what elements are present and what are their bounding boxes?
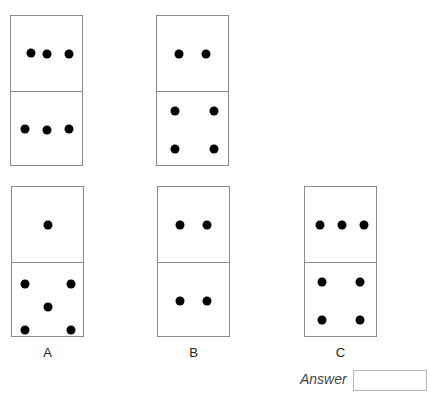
dot xyxy=(43,126,52,135)
dot xyxy=(202,50,211,59)
option-b-domino[interactable] xyxy=(157,186,230,337)
dot xyxy=(27,49,36,58)
domino-bottom-half xyxy=(305,262,376,338)
dot xyxy=(356,278,365,287)
domino-top-half xyxy=(157,16,228,91)
dot xyxy=(171,145,180,154)
dot xyxy=(175,50,184,59)
dot xyxy=(316,221,325,230)
domino-bottom-half xyxy=(157,91,228,167)
option-a-label: A xyxy=(11,345,84,360)
option-c-domino[interactable] xyxy=(304,186,377,337)
domino-top-half xyxy=(12,187,83,262)
dot xyxy=(210,107,219,116)
dot xyxy=(65,50,74,59)
dot xyxy=(21,326,30,335)
dot xyxy=(44,221,53,230)
dot xyxy=(203,297,212,306)
dot xyxy=(210,145,219,154)
option-a-domino[interactable] xyxy=(11,186,84,337)
sequence-domino-1 xyxy=(10,15,83,166)
answer-input[interactable] xyxy=(353,370,427,391)
dot xyxy=(318,316,327,325)
option-c-label: C xyxy=(304,345,377,360)
sequence-domino-2 xyxy=(156,15,229,166)
dot xyxy=(21,280,30,289)
dot xyxy=(44,303,53,312)
dot xyxy=(176,221,185,230)
domino-top-half xyxy=(158,187,229,262)
dot xyxy=(338,221,347,230)
domino-bottom-half xyxy=(158,262,229,338)
dot xyxy=(65,125,74,134)
dot xyxy=(176,297,185,306)
dot xyxy=(43,50,52,59)
option-b-label: B xyxy=(157,345,230,360)
dot xyxy=(171,107,180,116)
domino-top-half xyxy=(305,187,376,262)
dot xyxy=(67,326,76,335)
dot xyxy=(356,316,365,325)
dot xyxy=(360,221,369,230)
domino-top-half xyxy=(11,16,82,91)
answer-label: Answer xyxy=(300,371,347,387)
domino-bottom-half xyxy=(11,91,82,167)
dot xyxy=(318,278,327,287)
dot xyxy=(67,280,76,289)
dot xyxy=(21,125,30,134)
domino-bottom-half xyxy=(12,262,83,338)
dot xyxy=(203,221,212,230)
